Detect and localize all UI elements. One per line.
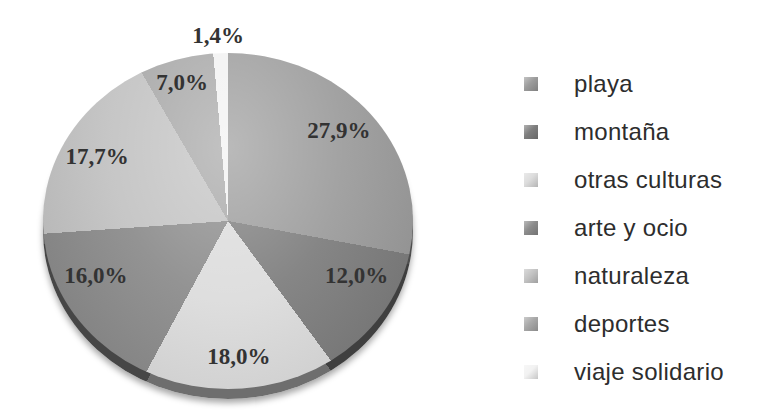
- legend-label: montaña: [574, 118, 670, 146]
- legend-label: playa: [574, 70, 633, 98]
- legend-label: viaje solidario: [574, 358, 724, 386]
- legend-label: naturaleza: [574, 262, 689, 290]
- legend-item-naturaleza: naturaleza: [524, 252, 724, 300]
- legend: playa montaña otras culturas arte y ocio…: [524, 60, 724, 396]
- legend-swatch-naturaleza: [524, 269, 538, 283]
- legend-label: deportes: [574, 310, 670, 338]
- legend-swatch-arte-y-ocio: [524, 221, 538, 235]
- slice-label-arte-y-ocio: 16,0%: [64, 263, 127, 289]
- slice-label-viaje-solidario: 1,4%: [192, 23, 244, 49]
- legend-label: otras culturas: [574, 166, 722, 194]
- legend-swatch-otras-culturas: [524, 173, 538, 187]
- legend-item-arte-y-ocio: arte y ocio: [524, 204, 724, 252]
- legend-item-deportes: deportes: [524, 300, 724, 348]
- legend-item-viaje-solidario: viaje solidario: [524, 348, 724, 396]
- pie-chart-figure: 27,9% 12,0% 18,0% 16,0% 17,7% 7,0% 1,4% …: [0, 0, 767, 413]
- legend-swatch-montana: [524, 125, 538, 139]
- slice-label-otras-culturas: 18,0%: [207, 344, 270, 370]
- legend-label: arte y ocio: [574, 214, 688, 242]
- legend-swatch-deportes: [524, 317, 538, 331]
- slice-label-deportes: 7,0%: [156, 70, 208, 96]
- slice-label-naturaleza: 17,7%: [66, 144, 129, 170]
- slice-label-playa: 27,9%: [307, 118, 370, 144]
- pie-disc: [43, 53, 413, 389]
- legend-item-otras-culturas: otras culturas: [524, 156, 724, 204]
- slice-label-montana: 12,0%: [325, 263, 388, 289]
- legend-swatch-viaje-solidario: [524, 365, 538, 379]
- pie-chart: 27,9% 12,0% 18,0% 16,0% 17,7% 7,0% 1,4%: [43, 53, 413, 389]
- legend-item-playa: playa: [524, 60, 724, 108]
- legend-swatch-playa: [524, 77, 538, 91]
- legend-item-montana: montaña: [524, 108, 724, 156]
